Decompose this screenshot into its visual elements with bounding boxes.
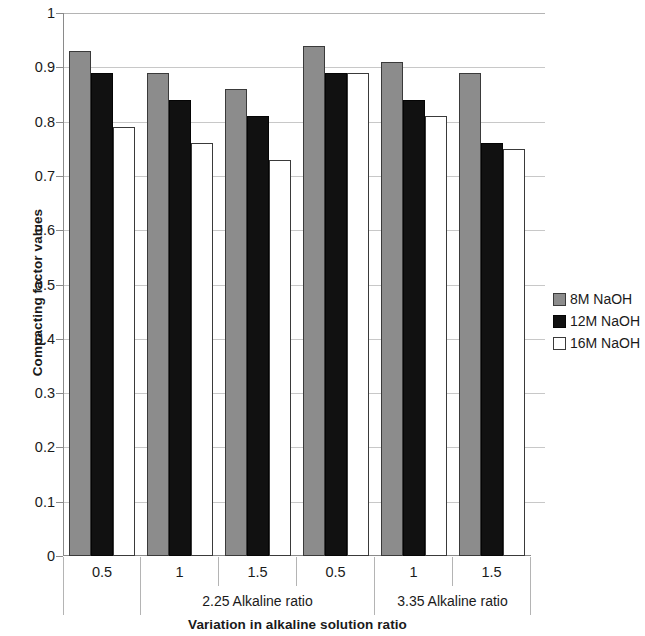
x-axis-group-label: 2.25 Alkaline ratio <box>141 586 375 615</box>
bar-16m-naoh-group-6 <box>503 149 525 556</box>
y-axis-tick-label: 0.4 <box>0 332 55 347</box>
y-axis-tick-label: 0 <box>0 549 55 564</box>
y-axis-tick-label: 0.3 <box>0 386 55 401</box>
y-axis-tick-label: 0.8 <box>0 114 55 129</box>
bar-chart-figure: Compacting factor values 00.10.20.30.40.… <box>0 0 645 636</box>
bar-12m-naoh-group-1 <box>91 73 113 556</box>
bar-12m-naoh-group-6 <box>481 143 503 556</box>
y-axis-tick-label: 0.6 <box>0 223 55 238</box>
y-axis-tick <box>56 393 63 394</box>
x-axis-group-blank <box>63 586 141 615</box>
legend-label: 8M NaOH <box>570 291 632 307</box>
y-axis-tick-label: 1 <box>0 6 55 21</box>
bar-12m-naoh-group-5 <box>403 100 425 556</box>
y-axis-tick-label: 0.5 <box>0 277 55 292</box>
x-axis-tick-label: 0.5 <box>63 557 141 586</box>
legend-swatch-icon <box>553 315 566 328</box>
y-axis-tick-label: 0.9 <box>0 60 55 75</box>
y-axis-tick <box>56 339 63 340</box>
bar-12m-naoh-group-4 <box>325 73 347 556</box>
y-axis-tick-label: 0.2 <box>0 440 55 455</box>
bar-16m-naoh-group-4 <box>347 73 369 556</box>
legend-item: 8M NaOH <box>553 288 645 310</box>
bar-8m-naoh-group-1 <box>69 51 91 556</box>
y-axis-tick <box>56 176 63 177</box>
bar-16m-naoh-group-5 <box>425 116 447 556</box>
y-axis-tick <box>56 285 63 286</box>
y-axis-tick <box>56 67 63 68</box>
y-axis-tick-label: 0.7 <box>0 169 55 184</box>
bar-16m-naoh-group-1 <box>113 127 135 556</box>
bar-12m-naoh-group-2 <box>169 100 191 556</box>
bar-8m-naoh-group-2 <box>147 73 169 556</box>
legend-item: 12M NaOH <box>553 310 645 332</box>
y-axis-tick <box>56 447 63 448</box>
y-axis-tick <box>56 556 63 557</box>
bar-8m-naoh-group-3 <box>225 89 247 556</box>
y-axis-tick-label: 0.1 <box>0 494 55 509</box>
legend: 8M NaOH12M NaOH16M NaOH <box>553 288 645 354</box>
legend-swatch-icon <box>553 337 566 350</box>
x-axis-tick-label: 1.5 <box>219 557 297 586</box>
legend-swatch-icon <box>553 293 566 306</box>
x-axis-group-label: 3.35 Alkaline ratio <box>375 586 531 615</box>
bar-8m-naoh-group-5 <box>381 62 403 556</box>
y-axis-tick <box>56 502 63 503</box>
x-axis-tick-label: 0.5 <box>297 557 375 586</box>
legend-item: 16M NaOH <box>553 332 645 354</box>
x-axis-label-table: 0.511.50.511.5 2.25 Alkaline ratio3.35 A… <box>63 557 532 615</box>
x-axis-group-row: 2.25 Alkaline ratio3.35 Alkaline ratio <box>63 586 532 615</box>
x-axis-title: Variation in alkaline solution ratio <box>63 617 532 632</box>
bar-12m-naoh-group-3 <box>247 116 269 556</box>
bar-8m-naoh-group-4 <box>303 46 325 556</box>
x-axis-tick-label: 1 <box>141 557 219 586</box>
bar-16m-naoh-group-2 <box>191 143 213 556</box>
legend-label: 16M NaOH <box>570 335 640 351</box>
bar-16m-naoh-group-3 <box>269 160 291 556</box>
y-axis-tick <box>56 122 63 123</box>
plot-area <box>63 13 531 556</box>
y-axis-tick <box>56 230 63 231</box>
legend-label: 12M NaOH <box>570 313 640 329</box>
y-axis-tick <box>56 13 63 14</box>
bar-8m-naoh-group-6 <box>459 73 481 556</box>
x-axis-tick-label: 1 <box>375 557 453 586</box>
x-axis-tick-label: 1.5 <box>453 557 531 586</box>
x-axis-tick-row: 0.511.50.511.5 <box>63 557 532 586</box>
